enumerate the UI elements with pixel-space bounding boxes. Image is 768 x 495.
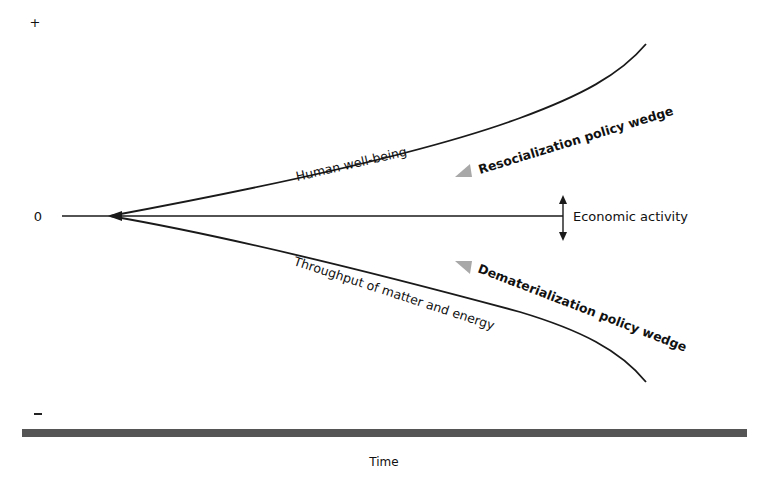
- y-axis-minus-label: [34, 413, 42, 415]
- x-axis-label: Time: [368, 455, 398, 469]
- dematerialization-wedge-label: Dematerialization policy wedge: [476, 261, 689, 355]
- y-axis-plus-label: +: [30, 15, 41, 30]
- economic-activity-label: Economic activity: [573, 209, 688, 224]
- dematerialization-wedge-triangle: [455, 261, 472, 274]
- time-axis-bar: [22, 429, 747, 437]
- resocialization-wedge-triangle: [455, 164, 472, 177]
- y-axis-zero-label: 0: [34, 209, 42, 224]
- resocialization-wedge-label: Resocialization policy wedge: [476, 103, 675, 177]
- up-down-arrow-icon: [559, 195, 567, 241]
- decoupling-diagram: + 0 Time Economic activity Human well-be…: [0, 0, 768, 495]
- human-well-being-curve: [110, 44, 646, 216]
- human-well-being-label: Human well-being: [294, 144, 408, 184]
